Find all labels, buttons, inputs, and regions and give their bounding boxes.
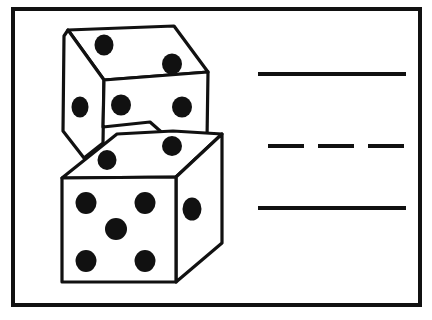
worksheet-canvas <box>0 0 432 320</box>
pip <box>162 136 182 156</box>
pip <box>98 150 117 170</box>
pip <box>183 198 202 221</box>
pip <box>162 54 182 75</box>
lower-die-right-face-pips <box>183 198 202 221</box>
pip <box>135 250 156 272</box>
pip <box>76 192 97 214</box>
pip <box>105 218 127 240</box>
pip <box>172 97 192 118</box>
pip <box>95 35 114 56</box>
pip <box>135 192 156 214</box>
pip <box>111 95 131 116</box>
pip <box>72 97 89 118</box>
worksheet-illustration <box>0 0 432 320</box>
upper-die-left-face-pips <box>72 97 89 118</box>
pip <box>76 250 97 272</box>
